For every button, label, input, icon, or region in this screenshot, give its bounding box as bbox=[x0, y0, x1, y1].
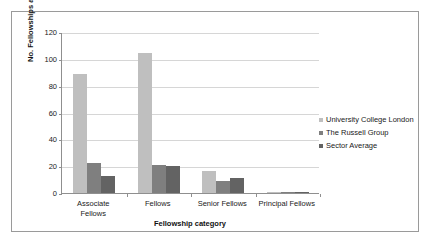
plot-area bbox=[61, 33, 319, 194]
bar-group bbox=[62, 33, 127, 193]
legend-swatch-icon bbox=[319, 118, 323, 122]
bar[interactable] bbox=[152, 165, 166, 193]
legend-swatch-icon bbox=[319, 131, 323, 135]
bar[interactable] bbox=[295, 192, 309, 193]
legend-swatch-icon bbox=[319, 144, 323, 148]
bar-group bbox=[127, 33, 192, 193]
x-tick-mark bbox=[191, 194, 192, 197]
x-axis-title: Fellowship category bbox=[61, 219, 319, 228]
legend-item[interactable]: Sector Average bbox=[319, 139, 431, 152]
y-tick-label: 0 bbox=[31, 190, 57, 198]
legend-label: The Russell Group bbox=[326, 128, 389, 137]
bar[interactable] bbox=[166, 166, 180, 194]
legend-item[interactable]: The Russell Group bbox=[319, 126, 431, 139]
y-tick-label: 60 bbox=[31, 110, 57, 118]
legend-label: Sector Average bbox=[326, 141, 377, 150]
bar[interactable] bbox=[101, 176, 115, 193]
bar[interactable] bbox=[87, 163, 101, 193]
bar[interactable] bbox=[230, 178, 244, 193]
bar-group bbox=[256, 33, 321, 193]
legend-item[interactable]: University College London bbox=[319, 113, 431, 126]
bar-group bbox=[191, 33, 256, 193]
y-tick-label: 80 bbox=[31, 83, 57, 91]
y-tick-label: 40 bbox=[31, 136, 57, 144]
x-tick-mark bbox=[256, 194, 257, 197]
bar[interactable] bbox=[216, 181, 230, 193]
y-tick-label: 20 bbox=[31, 163, 57, 171]
legend-label: University College London bbox=[326, 115, 414, 124]
y-tick-mark bbox=[59, 194, 62, 195]
bar[interactable] bbox=[202, 171, 216, 193]
x-category-label: Principal Fellows bbox=[245, 199, 330, 209]
y-tick-label: 100 bbox=[31, 56, 57, 64]
bar[interactable] bbox=[267, 192, 281, 193]
bar[interactable] bbox=[138, 53, 152, 193]
x-tick-mark bbox=[127, 194, 128, 197]
chart-frame: No. Fellowships awarded Fellowship categ… bbox=[11, 11, 419, 232]
bar[interactable] bbox=[281, 192, 295, 193]
y-tick-label: 120 bbox=[31, 29, 57, 37]
bar[interactable] bbox=[73, 74, 87, 193]
chart-legend: University College London The Russell Gr… bbox=[319, 113, 431, 152]
x-tick-mark bbox=[320, 194, 321, 197]
